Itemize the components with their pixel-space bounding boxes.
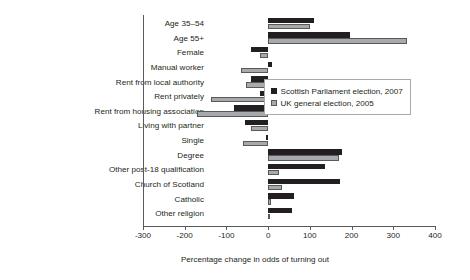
- bar-group: [143, 178, 435, 193]
- bar: [197, 111, 268, 116]
- bar: [268, 214, 270, 219]
- bar-group: [143, 163, 435, 178]
- bar: [268, 62, 272, 67]
- x-axis-title: Percentage change in odds of turning out: [0, 255, 470, 264]
- legend-item-uk-general: UK general election, 2005: [271, 97, 403, 109]
- bar: [241, 68, 269, 73]
- x-axis-tick: [352, 226, 353, 230]
- x-axis-tick: [393, 226, 394, 230]
- bar: [268, 199, 271, 204]
- bar: [251, 47, 268, 52]
- bar: [268, 155, 339, 160]
- bar-group: [143, 32, 435, 47]
- legend-label-uk-general: UK general election, 2005: [281, 99, 374, 108]
- bar: [266, 135, 268, 140]
- bar-group: [143, 134, 435, 149]
- x-axis-tick-label: 400: [415, 231, 455, 240]
- bar: [268, 179, 340, 184]
- bar: [268, 149, 342, 154]
- x-axis-tick: [268, 226, 269, 230]
- x-axis-tick-label: 300: [373, 231, 413, 240]
- legend-label-scottish-parliament: Scottish Parliament election, 2007: [281, 87, 403, 96]
- bar: [211, 97, 268, 102]
- legend-item-scottish-parliament: Scottish Parliament election, 2007: [271, 85, 403, 97]
- bar: [245, 120, 268, 125]
- legend-swatch-dark-icon: [271, 88, 277, 94]
- x-axis-tick: [185, 226, 186, 230]
- bar: [268, 170, 279, 175]
- bar: [268, 185, 282, 190]
- bar: [268, 24, 310, 29]
- x-axis-line: [143, 226, 435, 227]
- bar-group: [143, 207, 435, 222]
- bar-group: [143, 17, 435, 32]
- bar: [268, 38, 407, 43]
- plot-area: [143, 17, 435, 222]
- bar-group: [143, 149, 435, 164]
- x-axis-tick-label: 200: [332, 231, 372, 240]
- x-axis-tick-label: -100: [206, 231, 246, 240]
- x-axis-tick: [143, 226, 144, 230]
- legend-swatch-light-icon: [271, 100, 277, 106]
- bar-group: [143, 46, 435, 61]
- bar: [268, 18, 314, 23]
- x-axis-tick-label: 100: [290, 231, 330, 240]
- x-axis-tick-label: -300: [123, 231, 163, 240]
- bar: [268, 32, 350, 37]
- horizontal-bar-chart: Age 35–54Age 55+FemaleManual workerRent …: [0, 0, 470, 280]
- bar: [268, 193, 293, 198]
- bar: [251, 126, 268, 131]
- x-axis-tick: [226, 226, 227, 230]
- bar: [260, 53, 268, 58]
- bar: [268, 208, 292, 213]
- chart-legend: Scottish Parliament election, 2007 UK ge…: [264, 79, 411, 115]
- x-axis-tick: [435, 226, 436, 230]
- bar: [243, 141, 268, 146]
- bar: [268, 164, 325, 169]
- x-axis-tick-label: -200: [165, 231, 205, 240]
- zero-reference-line: [143, 15, 144, 227]
- bar-group: [143, 61, 435, 76]
- bar-group: [143, 119, 435, 134]
- bar-group: [143, 193, 435, 208]
- x-axis-tick: [310, 226, 311, 230]
- x-axis-tick-label: 0: [248, 231, 288, 240]
